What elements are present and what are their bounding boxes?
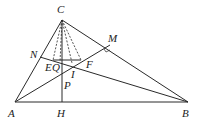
- label-F: F: [85, 58, 93, 70]
- dashed-CE: [53, 20, 62, 60]
- label-A: A: [7, 107, 15, 119]
- label-P: P: [63, 79, 71, 91]
- geometry-diagram: C N M E Q F I P A H B: [0, 0, 197, 124]
- label-M: M: [107, 32, 118, 44]
- label-E: E: [44, 61, 52, 73]
- label-C: C: [57, 3, 65, 15]
- label-B: B: [182, 107, 189, 119]
- label-I: I: [70, 68, 76, 80]
- label-H: H: [56, 107, 66, 119]
- dashed-CI: [62, 20, 72, 63]
- label-N: N: [29, 48, 38, 60]
- segment-CB: [62, 20, 188, 102]
- label-Q: Q: [52, 61, 60, 73]
